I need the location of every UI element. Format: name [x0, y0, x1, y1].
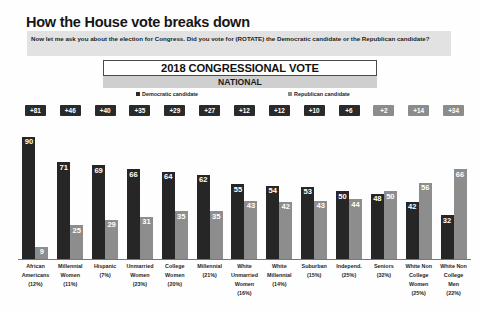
poll-question-box: Now let me ask you about the election fo… [27, 31, 451, 56]
margin-badge-cell: +6 [332, 104, 367, 117]
x-axis-label: Hispanic(7%) [88, 262, 123, 310]
legend-item-democratic: Democratic candidate [136, 91, 198, 97]
x-axis-label: CollegeWomen(20%) [157, 262, 192, 310]
margin-badge: +14 [408, 105, 429, 116]
bar-democratic: 64 [162, 172, 175, 259]
margin-badge-cell: +46 [53, 104, 88, 117]
margin-badge-cell: +14 [401, 104, 436, 117]
margin-badge-cell: +10 [297, 104, 332, 117]
bar-republican: 43 [314, 201, 327, 259]
bar-group: 6235 [192, 124, 227, 259]
x-axis-label-line: (20%) [158, 280, 191, 289]
x-axis-label-line: (25%) [402, 289, 435, 298]
bar-value-label: 35 [177, 213, 185, 221]
chart-legend: Democratic candidate Republican candidat… [103, 89, 377, 99]
x-axis-label-line: Women [402, 280, 435, 289]
x-axis-label-line: (22%) [437, 289, 470, 298]
bar-group: 4256 [401, 124, 436, 259]
x-axis-label: WhiteUnmarriedWomen(16%) [227, 262, 262, 310]
bar-value-label: 43 [247, 202, 255, 210]
x-axis-label-line: White Non [437, 262, 470, 271]
x-axis-label-line: Seniors [367, 262, 400, 271]
bar-group: 5044 [332, 124, 367, 259]
bar-republican: 42 [279, 202, 292, 259]
bar-group: 4850 [366, 124, 401, 259]
bar-value-label: 50 [338, 193, 346, 201]
margin-badge-cell: +40 [88, 104, 123, 117]
bar-group: 6631 [123, 124, 158, 259]
bar-republican: 66 [454, 169, 467, 259]
bar-republican: 44 [349, 199, 362, 259]
bar-value-label: 66 [129, 171, 137, 179]
x-axis-label: White NonCollegeMen(22%) [436, 262, 471, 310]
x-axis-label-line: Millennial [54, 262, 87, 271]
bar-group: 5543 [227, 124, 262, 259]
x-axis-label-line: (25%) [333, 271, 366, 280]
bar-democratic: 66 [127, 169, 140, 259]
bar-value-label: 48 [373, 195, 381, 203]
x-axis-label-line: Men [437, 280, 470, 289]
chart-subtitle-box: NATIONAL [103, 76, 377, 88]
x-axis-labels: AfricanAmericans(12%)MillennialWomen(11%… [18, 262, 471, 310]
x-axis-label-line: Women [158, 271, 191, 280]
bar-chart-plot-area: 9097125692966316435623555435442534350444… [18, 124, 471, 260]
bar-value-label: 35 [212, 213, 220, 221]
bar-republican: 35 [210, 211, 223, 259]
bar-democratic: 90 [22, 137, 35, 259]
bar-value-label: 71 [60, 164, 68, 172]
bar-group: 6435 [157, 124, 192, 259]
bar-group: 3266 [436, 124, 471, 259]
bar-value-label: 31 [142, 218, 150, 226]
x-axis-label: White NonCollegeWomen(25%) [401, 262, 436, 310]
bar-democratic: 48 [371, 194, 384, 259]
margin-badge-cell: +12 [262, 104, 297, 117]
margin-badge: +27 [199, 105, 220, 116]
x-axis-label-line: (23%) [124, 280, 157, 289]
margin-badge: +2 [373, 105, 394, 116]
x-axis-label-line: Women [124, 271, 157, 280]
x-axis-label-line: (14%) [263, 280, 296, 289]
x-axis-label-line: Americans [19, 271, 52, 280]
bar-group: 5343 [297, 124, 332, 259]
margin-badge-cell: +29 [157, 104, 192, 117]
chart-page: How the House vote breaks down Now let m… [0, 0, 480, 313]
legend-swatch-icon-democratic [136, 92, 140, 96]
bar-group: 7125 [53, 124, 88, 259]
x-axis-label-line: (32%) [367, 271, 400, 280]
poll-question-text: Now let me ask you about the election fo… [31, 34, 446, 44]
x-axis-label-line: Millennial [263, 271, 296, 280]
bar-value-label: 66 [456, 171, 464, 179]
x-axis-label-line: Hispanic [89, 262, 122, 271]
x-axis-label: Suburban(15%) [297, 262, 332, 310]
bar-value-label: 50 [386, 193, 394, 201]
x-axis-label-line: College [402, 271, 435, 280]
bar-democratic: 54 [266, 186, 279, 259]
bar-value-label: 56 [421, 184, 429, 192]
x-axis-label: Seniors(32%) [366, 262, 401, 310]
margin-badge: +81 [25, 105, 46, 116]
bar-democratic: 53 [301, 187, 314, 259]
bar-republican: 9 [35, 247, 48, 259]
margin-badge-cell: +2 [366, 104, 401, 117]
margin-badge-cell: +34 [436, 104, 471, 117]
x-axis-label-line: Millennial [193, 262, 226, 271]
bar-republican: 56 [419, 183, 432, 259]
bar-value-label: 44 [351, 201, 359, 209]
bar-value-label: 32 [443, 217, 451, 225]
x-axis-label-line: (11%) [54, 280, 87, 289]
margin-badge: +12 [269, 105, 290, 116]
margin-badge: +40 [95, 105, 116, 116]
legend-item-republican: Republican candidate [288, 91, 350, 97]
x-axis-label-line: (12%) [19, 280, 52, 289]
bar-republican: 50 [384, 191, 397, 259]
bar-value-label: 62 [199, 176, 207, 184]
page-title: How the House vote breaks down [26, 14, 250, 30]
chart-subtitle: NATIONAL [218, 77, 262, 87]
x-axis-label: AfricanAmericans(12%) [18, 262, 53, 310]
margin-badge: +46 [60, 105, 81, 116]
margin-badge: +29 [164, 105, 185, 116]
x-axis-label: Millennial(21%) [192, 262, 227, 310]
margin-badge: +10 [304, 105, 325, 116]
bar-republican: 25 [70, 225, 83, 259]
margin-badge: +12 [234, 105, 255, 116]
